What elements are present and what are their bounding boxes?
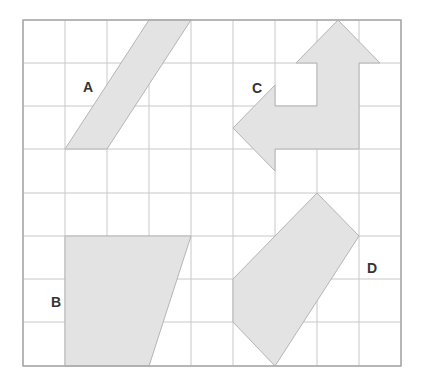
shape-b xyxy=(65,236,191,366)
shape-label-a: A xyxy=(83,79,93,95)
shape-label-d: D xyxy=(367,260,377,276)
grid-diagram xyxy=(0,0,422,384)
shape-label-c: C xyxy=(252,80,262,96)
shape-label-b: B xyxy=(51,294,61,310)
